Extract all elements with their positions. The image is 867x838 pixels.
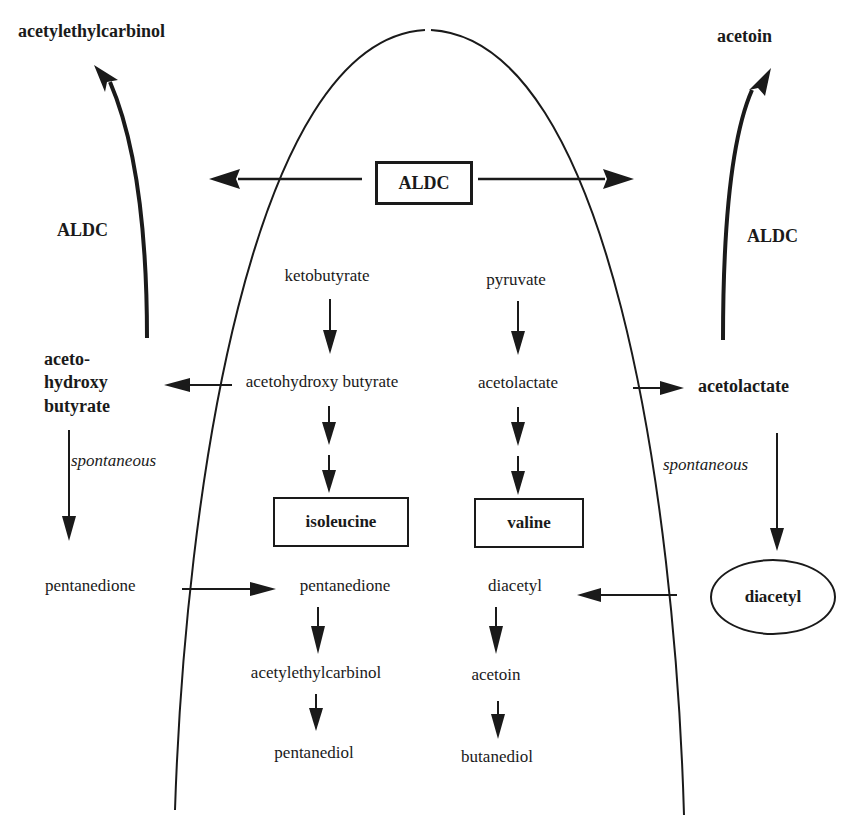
label-pyruvate: pyruvate	[486, 270, 545, 290]
arrow-pentanedione-to-aec	[311, 607, 325, 654]
arrow-right-spontaneous	[770, 433, 784, 551]
label-acetohydroxy-butyrate: acetohydroxy butyrate	[246, 372, 398, 392]
arrow-ahb-step2	[322, 455, 336, 493]
aldc-left-arrow	[209, 169, 362, 189]
label-spontaneous-left: spontaneous	[71, 451, 156, 471]
label-acetohydroxybutyrate-outside: aceto- hydroxy butyrate	[44, 348, 110, 418]
arrow-acetoin-to-butanediol	[491, 701, 505, 739]
label-line: aceto-	[44, 348, 110, 371]
label-aldc-center: ALDC	[398, 173, 449, 194]
arrow-diacetyl-import	[577, 588, 677, 602]
aldc-right-arrow	[478, 169, 634, 189]
arrow-ketobutyrate-to-acetohydroxybutyrate	[323, 299, 337, 354]
label-valine: valine	[507, 513, 550, 533]
arrow-pyruvate-to-acetolactate	[511, 301, 525, 355]
diagram-lines	[0, 0, 867, 838]
label-acetylethylcarbinol-outside: acetylethylcarbinol	[18, 21, 165, 43]
label-acetoin-inside: acetoin	[471, 665, 520, 685]
label-acetolactate-outside: acetolactate	[698, 376, 789, 398]
cell-membrane	[175, 30, 684, 815]
valine-box: valine	[474, 498, 584, 548]
label-line: hydroxy	[44, 371, 110, 394]
aldc-enzyme-box: ALDC	[375, 161, 473, 205]
arrow-ahb-step1	[322, 406, 336, 445]
label-line: butyrate	[44, 395, 110, 418]
arrow-al-step1	[511, 407, 525, 446]
label-pentanedione-inside: pentanedione	[300, 576, 391, 596]
diacetyl-ellipse: diacetyl	[710, 559, 836, 635]
label-butanediol: butanediol	[461, 747, 533, 767]
metabolic-pathway-diagram: acetylethylcarbinol ALDC aceto- hydroxy …	[0, 0, 867, 838]
label-acetolactate-inside: acetolactate	[478, 373, 558, 393]
label-diacetyl-inside: diacetyl	[488, 576, 542, 596]
label-acetylethylcarbinol-inside: acetylethylcarbinol	[251, 663, 381, 683]
isoleucine-box: isoleucine	[273, 497, 409, 547]
label-diacetyl-outside: diacetyl	[745, 587, 802, 607]
label-pentanediol: pentanediol	[274, 743, 353, 763]
left-aldc-curved-arrow	[94, 65, 147, 338]
label-acetoin-outside: acetoin	[717, 26, 772, 48]
arrow-aec-to-pentanediol	[309, 694, 323, 731]
label-spontaneous-right: spontaneous	[663, 455, 748, 475]
label-ketobutyrate: ketobutyrate	[285, 266, 370, 286]
arrow-diacetyl-to-acetoin	[489, 607, 503, 654]
label-aldc-left: ALDC	[57, 220, 108, 242]
arrow-left-spontaneous	[62, 430, 76, 541]
label-isoleucine: isoleucine	[306, 512, 377, 532]
label-aldc-right: ALDC	[747, 226, 798, 248]
arrow-pentanedione-import	[182, 582, 276, 596]
right-aldc-curved-arrow	[723, 68, 771, 340]
label-pentanedione-outside: pentanedione	[45, 576, 136, 596]
arrow-al-step2	[511, 456, 525, 495]
